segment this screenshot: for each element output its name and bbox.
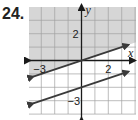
y-tick-label: 2: [73, 28, 79, 40]
inequality-graph: yx−322−3: [0, 0, 138, 120]
x-axis-label: x: [127, 46, 134, 60]
y-tick-label: −3: [68, 95, 81, 107]
y-axis-label: y: [85, 3, 92, 17]
x-tick-label: −3: [33, 63, 46, 75]
x-tick-label: 2: [105, 63, 111, 75]
